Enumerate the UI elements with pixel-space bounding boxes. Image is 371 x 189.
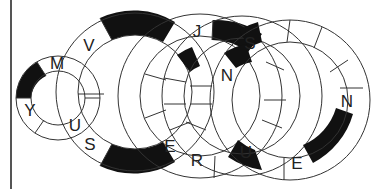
letter-S: S [84,135,95,154]
black-segment [100,10,175,42]
letter-R: R [191,151,203,170]
ring-puzzle-diagram: M Y U V S J E R [0,0,371,189]
ring-1: M Y U [16,54,100,141]
letter-S: S [244,34,255,53]
letter-E: E [164,137,175,156]
letter-V: V [83,36,95,55]
letter-E: E [291,154,302,173]
letter-N: N [341,92,353,111]
letter-Y: Y [24,101,35,120]
letter-U: U [240,143,252,162]
letter-N: N [221,66,233,85]
letter-U: U [69,116,81,135]
letter-J: J [193,22,202,41]
